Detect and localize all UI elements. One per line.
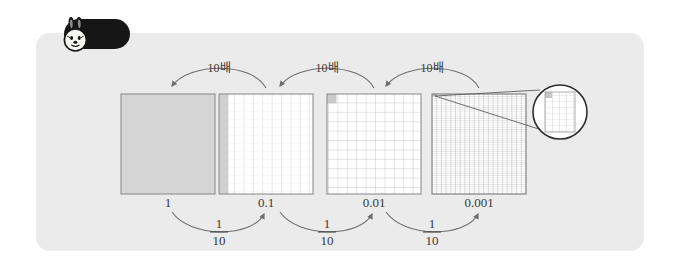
bottom-arrow-2-numerator: 1 [324,216,331,231]
square-one-label: 1 [165,195,172,210]
decimal-place-value-diagram: 1 0.1 0.01 0.001 [0,0,679,259]
square-tenths [219,94,313,194]
magnifier-content [545,92,575,132]
square-one [121,94,215,194]
square-thousandths-label: 0.001 [464,195,493,210]
square-tenths-label: 0.1 [258,195,274,210]
top-arrow-3-label: 10배 [421,61,444,75]
bottom-arrow-1-numerator: 1 [216,216,223,231]
bottom-arrow-3-fraction: 1 10 [423,216,441,248]
square-thousandths [432,94,526,194]
bottom-arrow-2-fraction: 1 10 [318,216,336,248]
top-arrow-1-label: 10배 [208,61,231,75]
top-arrow-2-label: 10배 [316,61,339,75]
bottom-arrow-2-denominator: 10 [321,233,334,248]
screenshot-stage: 덤 [0,0,679,259]
square-hundredths [327,94,421,194]
square-hundredths-label: 0.01 [363,195,386,210]
bottom-arrow-1-denominator: 10 [213,233,226,248]
bottom-arrow-3-denominator: 10 [426,233,439,248]
bottom-arrow-1-fraction: 1 10 [210,216,228,248]
bottom-arrow-3-numerator: 1 [429,216,436,231]
